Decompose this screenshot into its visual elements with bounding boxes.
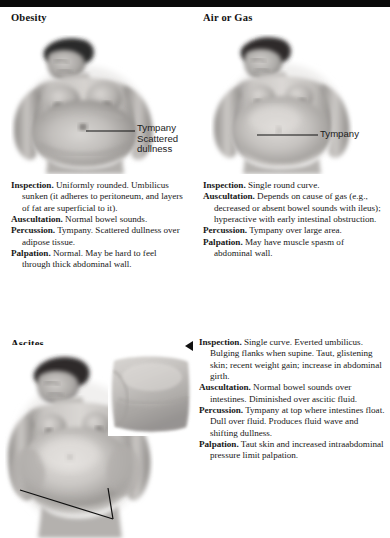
finding-term: Percussion. bbox=[199, 405, 243, 415]
finding-term: Auscultation. bbox=[203, 191, 255, 201]
panel-title-obesity: Obesity bbox=[11, 12, 47, 23]
findings-obesity: Inspection. Uniformly rounded. Umbilicus… bbox=[11, 180, 187, 271]
panel-title-air-or-gas: Air or Gas bbox=[203, 12, 252, 23]
finding-text: Single round curve. bbox=[248, 180, 319, 190]
finding-item: Inspection. Single curve. Everted umbili… bbox=[199, 337, 385, 382]
finding-term: Auscultation. bbox=[11, 214, 63, 224]
finding-item: Auscultation. Depends on cause of gas (e… bbox=[203, 191, 383, 225]
finding-item: Percussion. Tympany over large area. bbox=[203, 225, 383, 236]
finding-item: Inspection. Single round curve. bbox=[203, 180, 383, 191]
finding-item: Palpation. Taut skin and increased intra… bbox=[199, 439, 385, 462]
callout-obesity-line-1: Tympany bbox=[137, 123, 178, 134]
section-pointer-triangle-icon bbox=[185, 341, 193, 351]
finding-text: Normal bowel sounds. bbox=[65, 214, 147, 224]
panel-obesity: Obesity bbox=[0, 0, 195, 305]
finding-item: Auscultation. Normal bowel sounds. bbox=[11, 214, 187, 225]
callout-obesity: Tympany Scattered dullness bbox=[137, 123, 178, 155]
callout-air-or-gas: Tympany bbox=[320, 129, 359, 140]
finding-term: Inspection. bbox=[203, 180, 246, 190]
figure-ascites-inset-photo bbox=[108, 353, 193, 436]
finding-term: Percussion. bbox=[11, 225, 55, 235]
finding-term: Percussion. bbox=[203, 225, 247, 235]
finding-term: Palpation. bbox=[199, 439, 239, 449]
finding-text: Tympany over large area. bbox=[249, 225, 342, 235]
finding-term: Palpation. bbox=[203, 237, 243, 247]
finding-item: Percussion. Tympany. Scattered dullness … bbox=[11, 225, 187, 248]
finding-item: Auscultation. Normal bowel sounds over i… bbox=[199, 382, 385, 405]
finding-item: Inspection. Uniformly rounded. Umbilicus… bbox=[11, 180, 187, 214]
panel-ascites: Ascites bbox=[0, 305, 390, 538]
callout-obesity-line-3: dullness bbox=[137, 144, 178, 155]
ascites-inset-illustration bbox=[108, 353, 193, 436]
panel-air-or-gas: Air or Gas bbox=[195, 0, 390, 305]
figure-air-or-gas-photo bbox=[195, 26, 390, 174]
finding-term: Inspection. bbox=[199, 337, 242, 347]
finding-item: Percussion. Tympany at top where intesti… bbox=[199, 405, 385, 439]
finding-term: Inspection. bbox=[11, 180, 54, 190]
callout-air-or-gas-line-1: Tympany bbox=[320, 129, 359, 140]
finding-item: Palpation. Normal. May be hard to feel t… bbox=[11, 248, 187, 271]
air-or-gas-illustration bbox=[195, 26, 390, 174]
findings-ascites: Inspection. Single curve. Everted umbili… bbox=[199, 337, 385, 462]
findings-air-or-gas: Inspection. Single round curve. Ausculta… bbox=[203, 180, 383, 259]
finding-term: Auscultation. bbox=[199, 382, 251, 392]
finding-item: Palpation. May have muscle spasm of abdo… bbox=[203, 237, 383, 260]
finding-term: Palpation. bbox=[11, 248, 51, 258]
